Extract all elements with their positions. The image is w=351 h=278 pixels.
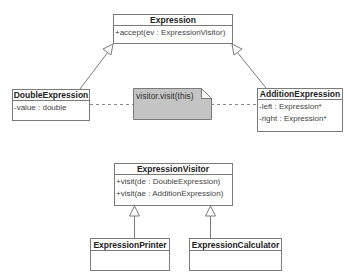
class-name: AdditionExpression	[260, 89, 340, 99]
generalization-calculator-to-visitor	[206, 206, 216, 238]
hollow-triangle-arrow-icon	[232, 44, 242, 55]
class-expression-printer[interactable]: ExpressionPrinter	[91, 239, 170, 271]
generalization-addition-to-expression	[232, 44, 266, 88]
class-expression-visitor[interactable]: ExpressionVisitor +visit(de : DoubleExpr…	[115, 164, 233, 206]
class-expression[interactable]: Expression +accept(ev : ExpressionVisito…	[114, 15, 233, 44]
class-member: +visit(ae : AdditionExpression)	[116, 189, 224, 198]
class-member: +accept(ev : ExpressionVisitor)	[115, 28, 226, 37]
generalization-double-to-expression	[80, 44, 113, 89]
class-member: -value : double	[14, 103, 67, 112]
class-name: ExpressionPrinter	[93, 240, 167, 250]
class-name: Expression	[150, 15, 196, 25]
class-name: DoubleExpression	[14, 90, 89, 100]
class-double-expression[interactable]: DoubleExpression -value : double	[13, 90, 90, 121]
class-member: +visit(de : DoubleExpression)	[116, 177, 221, 186]
class-name: ExpressionVisitor	[137, 164, 210, 174]
class-name: ExpressionCalculator	[192, 240, 280, 250]
generalization-printer-to-visitor	[130, 206, 140, 238]
note-visitor-visit-this[interactable]: visitor.visit(this)	[134, 89, 212, 120]
class-member: -left : Expression*	[259, 102, 322, 111]
uml-diagram-canvas: Expression +accept(ev : ExpressionVisito…	[0, 0, 351, 278]
class-expression-calculator[interactable]: ExpressionCalculator	[190, 239, 282, 271]
note-fold-corner	[202, 89, 212, 99]
class-member: -right : Expression*	[259, 114, 327, 123]
hollow-triangle-arrow-icon	[130, 206, 140, 216]
hollow-triangle-arrow-icon	[103, 44, 113, 55]
hollow-triangle-arrow-icon	[206, 206, 216, 216]
class-addition-expression[interactable]: AdditionExpression -left : Expression* -…	[258, 89, 343, 132]
note-text: visitor.visit(this)	[136, 91, 194, 101]
